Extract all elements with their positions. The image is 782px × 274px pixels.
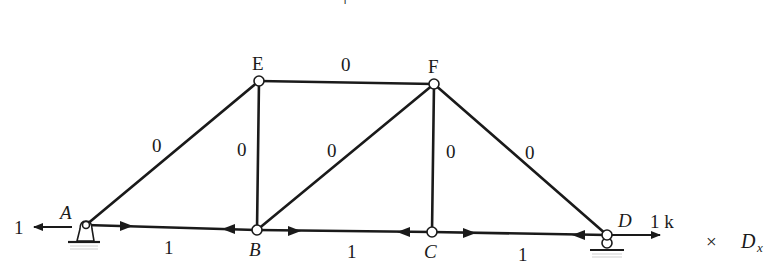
member-EB [257,81,259,230]
joint-F [429,79,439,89]
multiplier-variable: D [740,230,756,252]
truss-diagram: + 1 1 k [0,0,782,274]
force-label-AE: 0 [152,135,162,156]
member-FC [432,84,434,232]
joint-label-A: A [58,202,72,223]
load-label-A: 1 [14,217,24,238]
member-AE [86,81,259,225]
arrow-BC-right-icon [288,226,301,236]
multiplier-subscript: x [756,240,763,255]
member-BF [257,84,434,230]
force-label-EF: 0 [341,54,351,75]
load-label-D: 1 k [650,211,674,232]
arrow-AB-right-icon [120,221,133,231]
joint-label-F: F [428,56,439,77]
joint-E [254,76,264,86]
arrow-CD-left-icon [572,230,585,240]
joint-C [427,227,437,237]
arrow-BC-left-icon [397,227,410,237]
joint-B [252,225,262,235]
member-FD [434,84,607,235]
force-label-FC: 0 [446,141,456,162]
multiply-sign: × [706,231,717,252]
force-label-AB: 1 [164,237,174,258]
member-EF [259,81,434,84]
force-label-CD: 1 [518,244,528,265]
joint-label-C: C [424,241,437,262]
force-label-EB: 0 [237,139,247,160]
force-label-BF: 0 [327,140,337,161]
arrow-CD-right-icon [463,228,476,238]
joint-label-E: E [252,53,264,74]
joint-label-D: D [617,210,632,231]
arrow-AB-left-icon [222,224,235,234]
force-label-FD: 0 [525,142,535,163]
joint-A [83,222,90,229]
roller-support-D-icon [590,238,624,257]
joint-D [602,230,612,240]
top-plus-mark: + [340,0,350,10]
joint-label-B: B [249,239,261,260]
force-label-BC: 1 [347,241,357,262]
